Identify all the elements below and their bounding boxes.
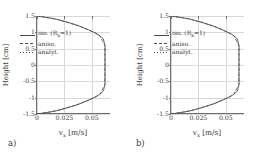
x-axis-title-subscript-a: x — [63, 132, 66, 138]
x-tick-mark — [226, 16, 227, 19]
y-tick-label: 1.5 — [25, 13, 35, 19]
legend-label-subscript: b — [57, 34, 60, 39]
legend-item: analyt. — [20, 48, 76, 57]
y-tick-label: 0 — [31, 62, 35, 68]
x-tick-label: 0.05 — [85, 115, 99, 121]
x-tick-mark — [171, 16, 172, 19]
y-tick-label: -1.5 — [157, 111, 169, 117]
legend-key-solid — [20, 35, 35, 36]
x-tick-label: 0.025 — [190, 115, 208, 121]
legend-a: iso. (Rb=1)aniso.analyt. — [20, 31, 76, 57]
y-axis-title-b: Height [cm] — [136, 44, 144, 87]
legend-key-solid — [154, 35, 169, 36]
x-axis-title-unit-b: [m/s] — [202, 128, 221, 137]
y-tick-label: -0.5 — [23, 78, 35, 84]
panel-b: Height [cm] 00.0250.05-1.5-1-0.500.511.5… — [134, 0, 268, 153]
x-tick-label: 0.025 — [56, 115, 74, 121]
x-axis-title-a: vx [m/s] — [59, 128, 87, 138]
y-tick-label: -1 — [29, 95, 35, 101]
panel-label-b: b) — [136, 138, 145, 148]
legend-key-dotted — [20, 52, 35, 53]
y-tick-label: -1 — [163, 95, 169, 101]
legend-item: iso. (Rb=1) — [20, 31, 76, 40]
legend-key-dashed — [154, 43, 169, 44]
x-tick-mark — [64, 16, 65, 19]
x-tick-mark — [37, 16, 38, 19]
x-axis-title-b: vx [m/s] — [193, 128, 221, 138]
x-tick-mark — [92, 16, 93, 19]
legend-key-dashed — [20, 43, 35, 44]
legend-label: analyt. — [172, 48, 193, 57]
y-tick-label: -1.5 — [23, 111, 35, 117]
legend-item: analyt. — [154, 48, 210, 57]
legend-label: analyt. — [38, 48, 59, 57]
y-axis-title-a: Height [cm] — [2, 44, 10, 87]
y-tick-label: 0 — [165, 62, 169, 68]
x-tick-label: 0 — [35, 115, 39, 121]
figure-two-panel-velocity-profiles: Height [cm] 00.0250.05-1.5-1-0.500.511.5… — [0, 0, 268, 153]
legend-item: iso. (Rb=1) — [154, 31, 210, 40]
legend-key-dotted — [154, 52, 169, 53]
x-axis-title-unit-a: [m/s] — [68, 128, 87, 137]
legend-label: aniso. — [38, 40, 56, 49]
legend-label-subscript: b — [191, 34, 194, 39]
legend-label: aniso. — [172, 40, 190, 49]
y-tick-label: -0.5 — [157, 78, 169, 84]
y-tick-label: 1.5 — [159, 13, 169, 19]
x-tick-label: 0.05 — [219, 115, 233, 121]
panel-a: Height [cm] 00.0250.05-1.5-1-0.500.511.5… — [0, 0, 134, 153]
legend-b: iso. (Rb=1)aniso.analyt. — [154, 31, 210, 57]
panel-label-a: a) — [8, 138, 16, 148]
x-tick-mark — [198, 16, 199, 19]
x-axis-title-subscript-b: x — [197, 132, 200, 138]
x-tick-label: 0 — [169, 115, 173, 121]
